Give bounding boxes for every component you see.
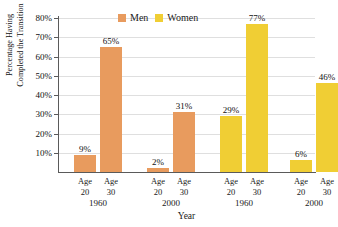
gridline xyxy=(59,95,315,96)
x-axis-year-label: 1960 xyxy=(235,198,253,208)
x-axis-age-label-line-2: 30 xyxy=(250,187,264,198)
x-axis-labels: Age20Age30Age20Age30Age20Age30Age20Age30… xyxy=(58,176,315,206)
y-axis-tick xyxy=(54,18,58,19)
bar-value-label: 2% xyxy=(152,157,164,167)
bar-value-label: 29% xyxy=(223,105,240,115)
bar: 46% xyxy=(316,83,338,172)
plot-area: 10%20%30%40%50%60%70%80% 9%65%2%31%29%77… xyxy=(58,18,315,172)
y-axis-tick-label: 40% xyxy=(36,90,53,100)
y-axis-tick xyxy=(54,37,58,38)
x-axis-age-label-line-1: Age xyxy=(224,176,238,187)
x-axis-age-label: Age30 xyxy=(320,176,334,198)
x-axis-age-label-line-2: 20 xyxy=(151,187,165,198)
gridline xyxy=(59,76,315,77)
y-axis-tick xyxy=(54,134,58,135)
y-axis-tick xyxy=(54,114,58,115)
legend-item-men: Men xyxy=(118,13,148,23)
bar-value-label: 65% xyxy=(103,36,120,46)
x-axis-age-label-line-1: Age xyxy=(294,176,308,187)
bar-value-label: 6% xyxy=(295,149,307,159)
y-axis-tick xyxy=(54,57,58,58)
bar: 31% xyxy=(173,112,195,172)
bar-value-label: 46% xyxy=(319,72,336,82)
x-axis-age-label: Age30 xyxy=(177,176,191,198)
x-axis-title: Year xyxy=(58,211,315,221)
y-axis-title: Percentage Having Completed the Transiti… xyxy=(5,0,35,125)
legend-swatch-men-icon xyxy=(118,14,126,22)
y-axis-tick-label: 20% xyxy=(36,129,53,139)
y-axis-tick xyxy=(54,153,58,154)
x-axis-age-label-line-1: Age xyxy=(78,176,92,187)
y-axis-tick-label: 30% xyxy=(36,109,53,119)
x-axis-year-label: 1960 xyxy=(89,198,107,208)
bar: 9% xyxy=(74,155,96,172)
x-axis-age-label-line-1: Age xyxy=(177,176,191,187)
y-axis-tick-label: 80% xyxy=(36,13,53,23)
x-axis-year-label: 2000 xyxy=(162,198,180,208)
bar-value-label: 31% xyxy=(176,101,193,111)
x-axis-age-label-line-2: 20 xyxy=(78,187,92,198)
x-axis-age-label: Age20 xyxy=(151,176,165,198)
bar: 65% xyxy=(100,47,122,172)
x-axis-age-label-line-2: 20 xyxy=(294,187,308,198)
legend-swatch-women-icon xyxy=(155,14,163,22)
legend-label-women: Women xyxy=(167,13,198,23)
y-axis-title-line-2: Completed the Transition xyxy=(16,0,27,125)
x-axis-age-label-line-1: Age xyxy=(250,176,264,187)
x-axis-age-label-line-2: 30 xyxy=(177,187,191,198)
bar: 6% xyxy=(290,160,312,172)
y-axis-tick-label: 50% xyxy=(36,71,53,81)
bar-value-label: 77% xyxy=(249,13,266,23)
x-axis-age-label-line-2: 30 xyxy=(320,187,334,198)
x-axis-age-label-line-2: 30 xyxy=(104,187,118,198)
y-axis-tick xyxy=(54,95,58,96)
bar: 77% xyxy=(246,24,268,172)
x-axis-age-label-line-1: Age xyxy=(151,176,165,187)
legend-item-women: Women xyxy=(155,13,198,23)
x-axis-age-label: Age30 xyxy=(104,176,118,198)
x-axis-year-label: 2000 xyxy=(305,198,323,208)
x-axis-age-label: Age30 xyxy=(250,176,264,198)
bar: 29% xyxy=(220,116,242,172)
gridline xyxy=(59,57,315,58)
x-axis-age-label: Age20 xyxy=(224,176,238,198)
x-axis-line xyxy=(58,172,316,173)
y-axis-tick-label: 70% xyxy=(36,32,53,42)
x-axis-age-label-line-1: Age xyxy=(104,176,118,187)
legend-label-men: Men xyxy=(130,13,148,23)
bar-value-label: 9% xyxy=(79,144,91,154)
legend: Men Women xyxy=(118,13,198,23)
y-axis-tick-label: 60% xyxy=(36,52,53,62)
y-axis-tick xyxy=(54,76,58,77)
x-axis-age-label-line-2: 20 xyxy=(224,187,238,198)
x-axis-age-label: Age20 xyxy=(78,176,92,198)
gridline xyxy=(59,37,315,38)
y-axis-title-line-1: Percentage Having xyxy=(5,0,16,125)
x-axis-age-label: Age20 xyxy=(294,176,308,198)
y-axis-tick-label: 10% xyxy=(36,148,53,158)
bar: 2% xyxy=(147,168,169,172)
x-axis-age-label-line-1: Age xyxy=(320,176,334,187)
